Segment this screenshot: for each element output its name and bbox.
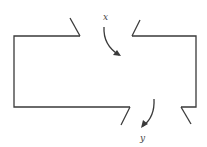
inlet-left-flange bbox=[70, 18, 80, 36]
outlet-right-flange bbox=[181, 107, 191, 124]
box-left-wall bbox=[14, 36, 130, 107]
inlet-right-flange bbox=[132, 20, 140, 36]
outlet-label: y bbox=[139, 133, 146, 143]
outlet-arrowhead-icon bbox=[141, 120, 148, 128]
outlet-left-flange bbox=[121, 107, 130, 125]
inlet-label: x bbox=[103, 12, 108, 22]
box-right-wall bbox=[132, 36, 196, 107]
diagram-canvas: x y bbox=[0, 0, 207, 147]
